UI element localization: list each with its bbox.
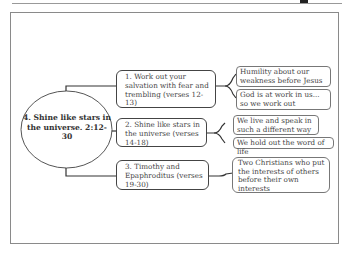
leaf-2a: We live and speak in such a different wa…	[233, 115, 319, 135]
leaf-3a: Two Christians who put the interests of …	[232, 157, 330, 193]
central-topic: 4. Shine like stars in the universe. 2:1…	[22, 113, 112, 142]
branch-2-node: 2. Shine like stars in the universe (ver…	[116, 118, 207, 147]
leaf-2b: We hold out the word of life	[233, 137, 334, 149]
branch-1-node: 1. Work out your salvation with fear and…	[116, 70, 216, 108]
leaf-1a: Humility about our weakness before Jesus	[236, 66, 331, 87]
branch-3-node: 3. Timothy and Epaphroditus (verses 19-3…	[116, 160, 209, 190]
leaf-1b: God is at work in us... so we work out	[236, 89, 331, 110]
